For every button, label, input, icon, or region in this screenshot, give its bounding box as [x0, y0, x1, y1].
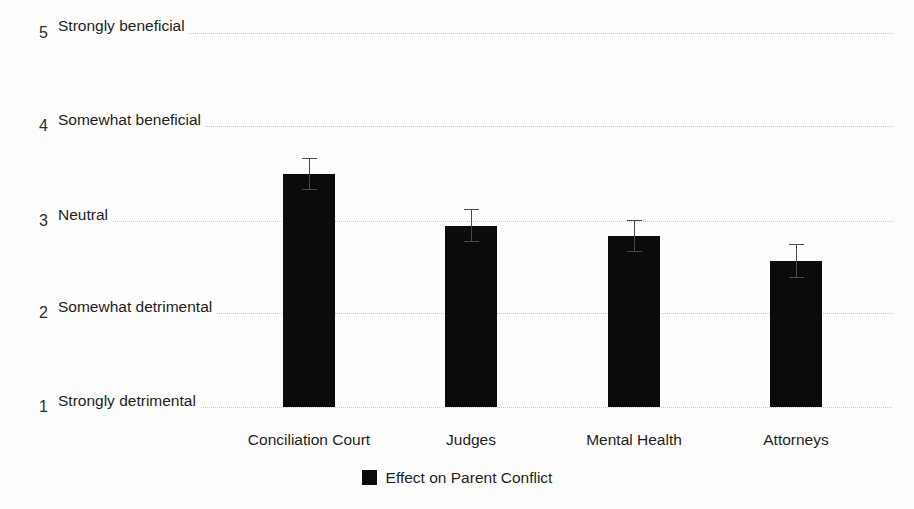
error-cap-bottom [302, 189, 317, 190]
x-axis-label-mental-health: Mental Health [586, 432, 682, 448]
error-bar-conciliation-court [309, 158, 310, 190]
error-cap-top [627, 220, 642, 221]
bar-mental-health [608, 236, 660, 407]
legend: Effect on Parent Conflict [0, 470, 914, 486]
gridline-3 [62, 221, 892, 222]
y-tick-label-somewhat-detrimental: Somewhat detrimental [58, 299, 216, 315]
error-cap-bottom [627, 251, 642, 252]
bar-chart-figure: 5 4 3 2 1 Strongly beneficial Somewhat b… [0, 0, 914, 509]
error-cap-top [302, 158, 317, 159]
plot-area: 5 4 3 2 1 Strongly beneficial Somewhat b… [0, 0, 914, 509]
error-bar-judges [471, 209, 472, 243]
y-tick-label-neutral: Neutral [58, 207, 112, 223]
bar-conciliation-court [283, 174, 335, 407]
error-bar-mental-health [634, 220, 635, 252]
legend-swatch-icon [362, 470, 377, 485]
error-cap-top [789, 244, 804, 245]
x-axis-label-judges: Judges [446, 432, 496, 448]
y-tick-number-1: 1 [28, 399, 48, 415]
error-bar-attorneys [796, 244, 797, 278]
y-tick-label-strongly-detrimental: Strongly detrimental [58, 393, 200, 409]
error-cap-bottom [789, 277, 804, 278]
bar-judges [445, 226, 497, 407]
x-axis-label-attorneys: Attorneys [763, 432, 828, 448]
y-tick-label-somewhat-beneficial: Somewhat beneficial [58, 112, 205, 128]
y-tick-number-4: 4 [28, 118, 48, 134]
legend-label: Effect on Parent Conflict [386, 470, 553, 486]
legend-item-effect-on-parent-conflict: Effect on Parent Conflict [362, 470, 553, 486]
y-tick-number-5: 5 [28, 25, 48, 41]
x-axis-label-conciliation-court: Conciliation Court [248, 432, 370, 448]
bar-attorneys [770, 261, 822, 407]
y-tick-label-strongly-beneficial: Strongly beneficial [58, 18, 189, 34]
y-tick-number-2: 2 [28, 305, 48, 321]
error-cap-bottom [464, 241, 479, 242]
error-cap-top [464, 209, 479, 210]
y-tick-number-3: 3 [28, 213, 48, 229]
